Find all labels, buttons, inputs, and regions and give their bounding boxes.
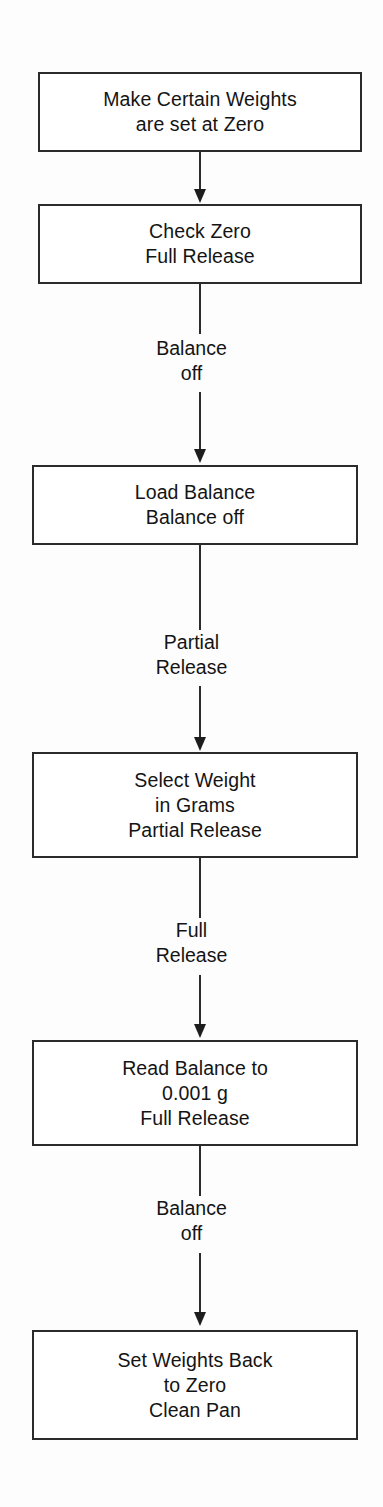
node-text-line: Clean Pan xyxy=(149,1398,241,1423)
arrowhead-edge-2 xyxy=(194,449,206,463)
edge-label-line: off xyxy=(0,1221,383,1246)
flowchart-node-read-balance[interactable]: Read Balance to 0.001 g Full Release xyxy=(32,1040,358,1146)
node-text-line: Full Release xyxy=(145,244,255,269)
edge-label-line: Release xyxy=(0,943,383,968)
node-text-line: Load Balance xyxy=(135,480,255,505)
arrowhead-edge-1 xyxy=(194,189,206,203)
connector-stem-edge-5-lower xyxy=(199,1253,201,1313)
flowchart-node-make-certain-weights-zero[interactable]: Make Certain Weights are set at Zero xyxy=(38,72,362,152)
edge-label-line: Full xyxy=(0,918,383,943)
edge-label-line: off xyxy=(0,361,383,386)
arrowhead-edge-3 xyxy=(194,737,206,751)
node-text-line: Read Balance to xyxy=(122,1056,268,1081)
connector-stem-edge-5-upper xyxy=(199,1146,201,1196)
edge-label-line: Balance xyxy=(0,336,383,361)
connector-stem-edge-4-upper xyxy=(199,858,201,918)
flowchart-node-load-balance[interactable]: Load Balance Balance off xyxy=(32,465,358,545)
node-text-line: Make Certain Weights xyxy=(103,87,296,112)
flowchart-canvas: Make Certain Weights are set at Zero Che… xyxy=(0,0,383,1507)
node-text-line: are set at Zero xyxy=(136,112,264,137)
edge-label-balance-off-1: Balance off xyxy=(0,336,383,386)
arrowhead-edge-5 xyxy=(194,1312,206,1326)
edge-label-full-release: Full Release xyxy=(0,918,383,968)
edge-label-line: Balance xyxy=(0,1196,383,1221)
connector-stem-edge-1 xyxy=(199,152,201,190)
node-text-line: to Zero xyxy=(164,1373,226,1398)
flowchart-node-check-zero[interactable]: Check Zero Full Release xyxy=(38,204,362,284)
node-text-line: Full Release xyxy=(140,1106,250,1131)
node-text-line: Partial Release xyxy=(128,818,262,843)
connector-stem-edge-4-lower xyxy=(199,975,201,1025)
flowchart-node-select-weight[interactable]: Select Weight in Grams Partial Release xyxy=(32,752,358,858)
edge-label-line: Release xyxy=(0,655,383,680)
node-text-line: Balance off xyxy=(146,505,244,530)
flowchart-node-set-weights-back[interactable]: Set Weights Back to Zero Clean Pan xyxy=(32,1330,358,1440)
edge-label-partial-release: Partial Release xyxy=(0,630,383,680)
arrowhead-edge-4 xyxy=(194,1024,206,1038)
connector-stem-edge-3-lower xyxy=(199,686,201,738)
node-text-line: Set Weights Back xyxy=(117,1348,272,1373)
node-text-line: Check Zero xyxy=(149,219,251,244)
connector-stem-edge-2-upper xyxy=(199,284,201,334)
node-text-line: 0.001 g xyxy=(162,1081,228,1106)
edge-label-balance-off-2: Balance off xyxy=(0,1196,383,1246)
connector-stem-edge-2-lower xyxy=(199,392,201,450)
connector-stem-edge-3-upper xyxy=(199,545,201,630)
node-text-line: in Grams xyxy=(155,793,235,818)
node-text-line: Select Weight xyxy=(134,768,255,793)
edge-label-line: Partial xyxy=(0,630,383,655)
